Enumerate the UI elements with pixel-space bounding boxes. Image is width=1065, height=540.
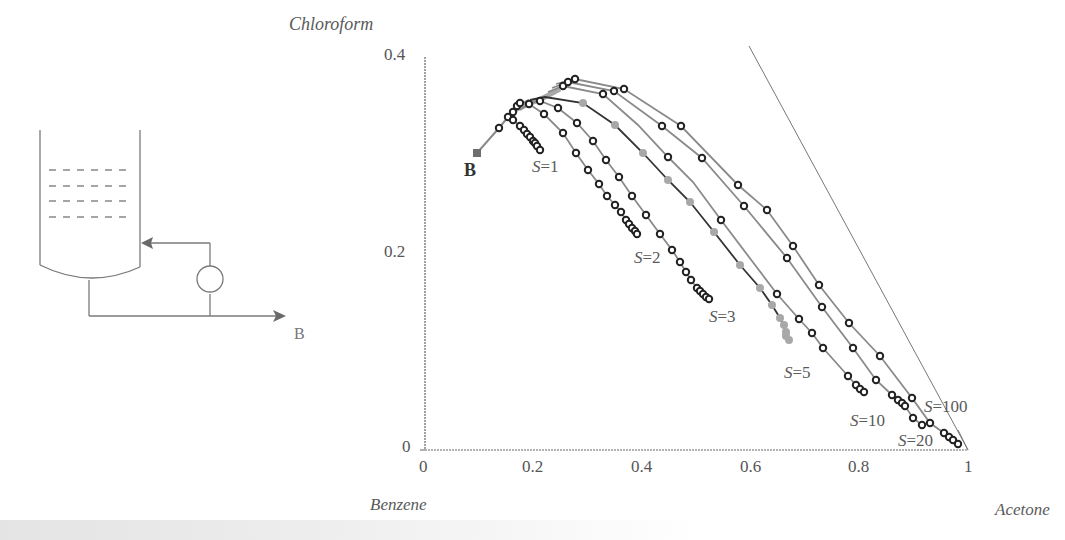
- s-value: =100: [933, 397, 968, 416]
- open-markers: [496, 76, 961, 447]
- x-tick-label: 0.4: [631, 457, 652, 477]
- series-s100: [556, 79, 958, 444]
- point-b-label: B: [464, 160, 476, 181]
- x-tick-label: 0: [419, 457, 428, 477]
- series-label-s10: S=10: [850, 411, 885, 431]
- y-axis-title: Chloroform: [289, 14, 373, 35]
- s-symbol: S: [924, 397, 933, 416]
- series-s20: [552, 82, 922, 425]
- s-value: =20: [907, 431, 934, 450]
- series-label-s2: S=2: [634, 248, 661, 268]
- x-axis-origin-label: Benzene: [370, 495, 427, 515]
- s-symbol: S: [898, 431, 907, 450]
- s-symbol: S: [634, 248, 643, 267]
- s-value: =1: [541, 157, 559, 176]
- y-tick-label: 0.4: [384, 45, 405, 65]
- series-s5: [530, 97, 789, 340]
- series-label-s100: S=100: [924, 397, 968, 417]
- series-label-s5: S=5: [784, 363, 811, 383]
- series-label-s3: S=3: [709, 307, 736, 327]
- s-value: =10: [859, 411, 886, 430]
- series-s10: [548, 86, 864, 392]
- x-axis-end-label: Acetone: [995, 500, 1050, 520]
- s-symbol: S: [850, 411, 859, 430]
- y-tick-label: 0.2: [384, 242, 405, 262]
- s-value: =5: [793, 363, 811, 382]
- start-point-b: [473, 149, 481, 157]
- s-value: =3: [718, 307, 736, 326]
- s5-markers: [579, 99, 793, 344]
- x-tick-label: 1: [964, 457, 973, 477]
- y-tick-label: 0: [402, 437, 411, 457]
- s-value: =2: [643, 248, 661, 267]
- series-label-s1: S=1: [532, 157, 559, 177]
- s-symbol: S: [532, 157, 541, 176]
- scan-artifact-band: [0, 520, 700, 540]
- x-tick-label: 0.8: [848, 457, 869, 477]
- series-label-s20: S=20: [898, 431, 933, 451]
- series-s3: [525, 101, 709, 299]
- figure: B: [0, 0, 1065, 540]
- s-symbol: S: [784, 363, 793, 382]
- x-tick-label: 0.2: [522, 457, 543, 477]
- s-symbol: S: [709, 307, 718, 326]
- x-tick-label: 0.6: [740, 457, 761, 477]
